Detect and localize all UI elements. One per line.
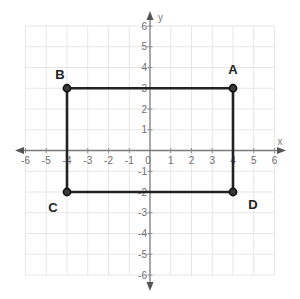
x-tick-label: -6 — [21, 155, 30, 166]
x-axis-left-arrow-icon — [15, 147, 24, 154]
x-tick-label: 0 — [145, 155, 151, 166]
vertex-d — [229, 188, 236, 195]
x-tick-label: -1 — [125, 155, 134, 166]
y-tick-label: 1 — [141, 124, 147, 135]
y-tick-label: 2 — [141, 104, 147, 115]
vertex-label-b: B — [55, 67, 64, 82]
y-tick-label: -3 — [138, 207, 147, 218]
x-tick-label: -2 — [104, 155, 113, 166]
x-tick-label: 1 — [168, 155, 174, 166]
x-tick-label: -5 — [42, 155, 51, 166]
vertex-label-d: D — [248, 197, 257, 212]
x-tick-label: -3 — [83, 155, 92, 166]
vertex-label-a: A — [228, 62, 238, 77]
y-tick-label: 4 — [141, 62, 147, 73]
axes: xy — [15, 11, 286, 291]
y-tick-label: -4 — [138, 228, 147, 239]
vertex-b — [63, 85, 70, 92]
vertex-c — [63, 188, 70, 195]
x-tick-label: 6 — [272, 155, 278, 166]
y-tick-label: 5 — [141, 41, 147, 52]
x-tick-label: 3 — [209, 155, 215, 166]
coordinate-plane: xy -6-5-4-3-2-10123456-6-5-4-3-2-1123456… — [0, 0, 300, 299]
y-axis-down-arrow-icon — [147, 282, 154, 291]
x-axis-right-arrow-icon — [277, 147, 286, 154]
x-tick-label: 2 — [189, 155, 195, 166]
y-axis-label: y — [158, 12, 163, 23]
y-tick-label: 6 — [141, 21, 147, 32]
y-tick-label: -1 — [138, 166, 147, 177]
x-tick-label: 5 — [251, 155, 257, 166]
x-axis-label: x — [278, 136, 283, 147]
y-tick-label: -5 — [138, 249, 147, 260]
y-tick-label: -6 — [138, 270, 147, 281]
y-axis-up-arrow-icon — [147, 11, 154, 20]
vertex-a — [229, 85, 236, 92]
vertex-label-c: C — [48, 200, 58, 215]
